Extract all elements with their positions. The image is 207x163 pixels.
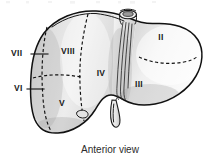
- segment-label-vii: VII: [11, 48, 22, 58]
- liver-segments-figure: VII VI VIII V IV II III Anterior view: [0, 0, 207, 163]
- gallbladder: [111, 100, 120, 127]
- segment-label-v: V: [59, 98, 65, 108]
- segment-label-iii: III: [135, 79, 143, 89]
- segment-label-vi: VI: [14, 83, 23, 93]
- figure-caption: Anterior view: [81, 144, 140, 155]
- segment-label-iv: IV: [97, 68, 106, 78]
- top-cropped-text-row: [6, 1, 156, 4]
- segment-label-ii: II: [158, 32, 163, 42]
- gallbladder-body: [111, 100, 120, 127]
- segment-label-viii: VIII: [61, 46, 75, 56]
- cystic-fossa-notch: [77, 110, 88, 118]
- liver-diagram: VII VI VIII V IV II III Anterior view: [0, 0, 207, 163]
